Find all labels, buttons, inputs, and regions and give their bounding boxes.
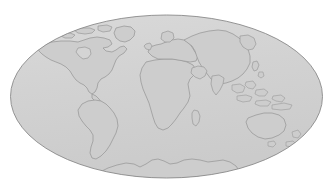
region-scandinavia: [161, 31, 174, 42]
region-arctic-islands-2: [98, 25, 112, 32]
world-map-svg: [0, 0, 333, 193]
region-se-island-4: [237, 95, 252, 102]
world-map-figure: [0, 0, 333, 193]
region-se-island-5: [255, 100, 271, 106]
